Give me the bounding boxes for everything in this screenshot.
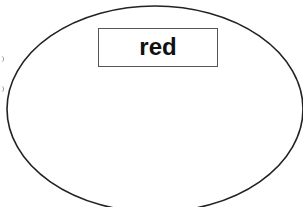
diagram-canvas: red bbox=[0, 0, 303, 207]
label-text: red bbox=[139, 35, 176, 59]
label-box: red bbox=[98, 28, 218, 67]
